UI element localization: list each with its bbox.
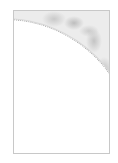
texture-thumbnail[interactable]	[13, 10, 110, 154]
cutout-edge	[13, 19, 110, 154]
